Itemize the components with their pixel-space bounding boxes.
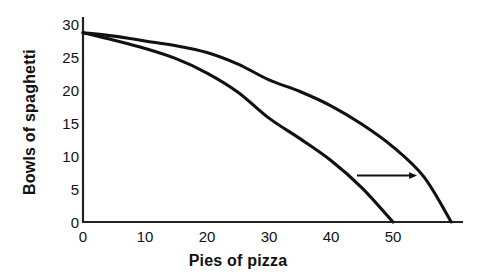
x-tick-label-40: 40 <box>311 228 351 245</box>
y-tick-label-5: 5 <box>45 181 79 198</box>
x-tick-label-20: 20 <box>187 228 227 245</box>
x-tick-label-0: 0 <box>63 228 103 245</box>
x-tick-label-30: 30 <box>249 228 289 245</box>
x-tick-label-10: 10 <box>125 228 165 245</box>
y-tick-label-15: 15 <box>45 115 79 132</box>
x-tick-label-50: 50 <box>373 228 413 245</box>
y-tick-label-25: 25 <box>45 49 79 66</box>
shift-arrow-head <box>409 172 417 179</box>
y-tick-label-30: 30 <box>45 16 79 33</box>
series-group <box>83 33 451 222</box>
annotation-group <box>357 172 417 179</box>
y-tick-label-20: 20 <box>45 82 79 99</box>
x-axis-title: Pies of pizza <box>83 252 393 270</box>
y-tick-label-10: 10 <box>45 148 79 165</box>
curve-outer-ppf <box>83 33 451 222</box>
production-possibilities-chart: 30 25 20 15 10 5 0 0 10 20 30 40 50 Bowl… <box>0 0 477 278</box>
y-axis-title: Bowls of spaghetti <box>21 32 39 212</box>
curve-inner-ppf <box>83 33 393 222</box>
